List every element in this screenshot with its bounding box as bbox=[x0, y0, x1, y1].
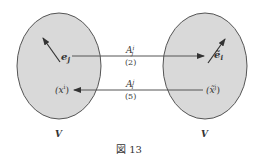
right-component-label: (x̃j) bbox=[206, 83, 220, 95]
backward-matrix-label: Aji bbox=[125, 78, 135, 90]
left-vector-space-ellipse bbox=[17, 13, 101, 119]
right-vector-space-ellipse bbox=[163, 13, 247, 119]
forward-equation-ref: (2) bbox=[125, 58, 136, 67]
figure-caption: 図 13 bbox=[116, 144, 142, 155]
forward-matrix-label: Aij bbox=[125, 44, 135, 57]
backward-equation-ref: (5) bbox=[125, 92, 136, 101]
left-space-label: V bbox=[55, 129, 63, 139]
left-component-label: (xi) bbox=[55, 83, 69, 95]
right-space-label: V bbox=[201, 129, 209, 139]
vector-space-diagram: ej ẽi (xi) (x̃j) Aij (2) Aji (5) V V 図 1… bbox=[0, 0, 263, 159]
